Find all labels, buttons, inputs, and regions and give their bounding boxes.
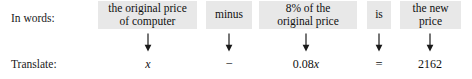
word-problem-translation-figure: In words: Translate: the original price … [0, 0, 472, 79]
phrase-line: the original price [108, 2, 187, 15]
down-arrow-icon [300, 33, 313, 52]
down-arrow-icon [424, 33, 437, 52]
phrase-line: the new [412, 2, 448, 15]
translation-term-equals-operator: = [375, 57, 382, 71]
variable: x [314, 57, 319, 71]
translation-term-minus-operator: − [225, 57, 232, 71]
phrase-line: is [375, 8, 383, 21]
phrase-box-minus: minus [206, 1, 252, 29]
row-label-in-words: In words: [11, 12, 55, 25]
phrase-box-new-price: the new price [400, 1, 461, 29]
phrase-line: price [419, 15, 442, 28]
phrase-box-eight-percent: 8% of the original price [259, 1, 357, 29]
translation-term-zero-point-zero-eight-x: 0.08x [293, 57, 319, 71]
phrase-line: original price [277, 15, 339, 28]
coefficient: 0.08 [293, 57, 314, 71]
phrase-line: 8% of the [286, 2, 331, 15]
phrase-box-original-price: the original price of computer [98, 1, 197, 29]
down-arrow-icon [373, 33, 386, 52]
down-arrow-icon [223, 33, 236, 52]
translation-term-2162: 2162 [418, 57, 442, 71]
phrase-line: of computer [120, 15, 176, 28]
down-arrow-icon [142, 33, 155, 52]
row-label-translate: Translate: [11, 58, 57, 71]
translation-term-x: x [145, 57, 150, 71]
phrase-line: minus [215, 8, 243, 21]
phrase-box-is: is [367, 1, 391, 29]
